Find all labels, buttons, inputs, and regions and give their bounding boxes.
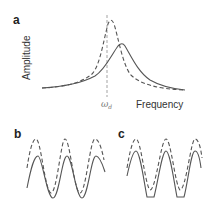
solid-wave-b [27, 156, 105, 198]
dashed-wave-b [27, 139, 104, 193]
panel-a: a Amplitude ωd Frequency [13, 13, 185, 110]
amplitude-axis-label: Amplitude [21, 35, 32, 80]
panel-c: c [118, 127, 202, 197]
panel-b-label: b [14, 127, 21, 141]
solid-wave-c [127, 151, 201, 197]
figure-canvas: a Amplitude ωd Frequency b c [0, 0, 215, 207]
panel-b: b [14, 127, 105, 198]
panel-a-label: a [13, 13, 20, 27]
panel-c-label: c [118, 127, 125, 141]
omega-d-label: ωd [101, 99, 112, 110]
frequency-axis-label: Frequency [136, 99, 183, 110]
solid-response-curve [42, 44, 185, 90]
dashed-response-curve [42, 20, 185, 90]
